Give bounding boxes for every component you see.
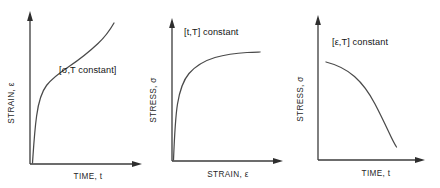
relaxation-curve xyxy=(326,62,397,147)
creep-y-axis-label: STRAIN, ε xyxy=(7,82,16,123)
creep-x-axis-label: TIME, t xyxy=(74,172,103,181)
chart-panel-isochronous: STRAIN, ε STRESS, σ [t,T] constant xyxy=(140,0,292,188)
isochronous-chart-svg: STRAIN, ε STRESS, σ [t,T] constant xyxy=(140,0,292,188)
chart-panel-relaxation: TIME, t STRESS, σ [ε,T] constant xyxy=(288,0,440,188)
isochronous-y-axis-label: STRESS, σ xyxy=(149,77,158,123)
relaxation-x-axis-arrow-icon xyxy=(415,157,425,163)
isochronous-curve xyxy=(174,52,261,160)
relaxation-y-axis-label: STRESS, σ xyxy=(296,76,305,122)
creep-y-axis-arrow-icon xyxy=(27,11,33,21)
relaxation-x-axis-label: TIME, t xyxy=(362,169,391,178)
relaxation-annotation-label: [ε,T] constant xyxy=(332,37,388,47)
isochronous-x-axis-label: STRAIN, ε xyxy=(207,170,248,179)
isochronous-y-axis-arrow-icon xyxy=(169,18,175,28)
creep-chart-svg: TIME, t STRAIN, ε [σ,T constant] xyxy=(0,0,150,188)
figure-root: TIME, t STRAIN, ε [σ,T constant] STRAIN,… xyxy=(0,0,440,188)
isochronous-x-axis-arrow-icon xyxy=(273,158,283,164)
creep-curve xyxy=(33,23,115,163)
chart-panel-creep: TIME, t STRAIN, ε [σ,T constant] xyxy=(0,0,150,188)
creep-annotation-label: [σ,T constant] xyxy=(59,65,116,75)
isochronous-annotation-label: [t,T] constant xyxy=(184,27,239,37)
relaxation-y-axis-arrow-icon xyxy=(315,15,321,25)
relaxation-chart-svg: TIME, t STRESS, σ [ε,T] constant xyxy=(288,0,440,188)
